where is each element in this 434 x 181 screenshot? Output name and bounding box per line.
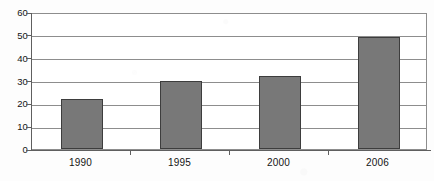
y-axis-tick-label: 30	[6, 77, 28, 87]
x-axis-tick-mark	[229, 151, 230, 155]
x-axis-tick-mark	[130, 151, 131, 155]
y-axis-tick-mark	[26, 127, 32, 128]
plot-area	[31, 13, 427, 150]
y-axis-tick-mark	[26, 35, 32, 36]
y-axis-tick-mark	[26, 13, 32, 14]
x-axis-tick-label: 1995	[168, 158, 191, 168]
y-axis-line	[31, 13, 32, 151]
y-axis-tick-label: 10	[6, 122, 28, 132]
y-axis-tick-label: 40	[6, 54, 28, 64]
y-axis-tick-label: 20	[6, 100, 28, 110]
x-axis-tick-label: 2000	[267, 158, 290, 168]
bar	[358, 37, 400, 149]
y-axis-tick-label: 0	[6, 145, 28, 155]
y-axis-tick-label: 60	[6, 8, 28, 18]
y-axis-tick-mark	[26, 150, 32, 151]
x-axis-tick-label: 2006	[366, 158, 389, 168]
y-axis-tick-mark	[26, 81, 32, 82]
x-axis-tick-mark	[328, 151, 329, 155]
y-axis-tick-label: 50	[6, 31, 28, 41]
bar	[61, 99, 103, 149]
x-axis-tick-label: 1990	[69, 158, 92, 168]
bar	[259, 76, 301, 149]
bar-chart-figure: 0102030405060 1990199520002006	[0, 0, 434, 181]
y-axis-tick-mark	[26, 58, 32, 59]
bar	[160, 81, 202, 150]
y-axis: 0102030405060	[2, 0, 28, 181]
y-axis-tick-mark	[26, 104, 32, 105]
